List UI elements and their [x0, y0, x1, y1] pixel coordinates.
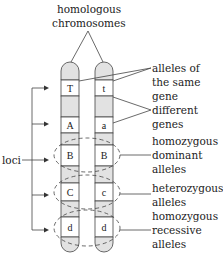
- allele-right-a: a: [102, 120, 107, 131]
- pointer-different-genes-bottom: [113, 110, 151, 123]
- pointer-different-genes-top: [113, 97, 151, 110]
- title-pointer-left: [71, 31, 88, 62]
- homologous-chromosomes-diagram: homologous chromosomes T A B C d t a B: [0, 0, 223, 266]
- arrow-head-icon: [44, 122, 49, 127]
- label-homozygous-recessive: homozygous recessive alleles: [152, 210, 221, 250]
- arrow-head-icon: [44, 193, 49, 198]
- allele-left-d: d: [68, 222, 73, 233]
- arrow-head-icon: [44, 158, 49, 163]
- allele-left-T: T: [67, 83, 73, 94]
- allele-right-c: c: [102, 187, 107, 198]
- label-heterozygous: heterozygous alleles: [152, 182, 223, 208]
- pointer-same-gene-left: [79, 68, 151, 81]
- allele-left-B: B: [67, 150, 74, 161]
- allele-right-t: t: [103, 83, 106, 94]
- label-alleles-same-gene: alleles of the same gene: [152, 62, 204, 102]
- allele-left-A: A: [66, 120, 74, 131]
- arrow-head-icon: [44, 228, 49, 233]
- allele-right-d: d: [102, 222, 107, 233]
- loci-arrows: [22, 86, 49, 233]
- label-loci: loci: [2, 154, 22, 166]
- title-pointer-right: [88, 31, 103, 62]
- pointer-same-gene-right: [113, 68, 151, 81]
- label-different-genes: different genes: [152, 104, 201, 130]
- title-line-1: homologous: [57, 3, 121, 15]
- title-line-2: chromosomes: [52, 17, 126, 29]
- allele-right-B: B: [101, 150, 108, 161]
- arrow-head-icon: [44, 86, 49, 91]
- allele-left-C: C: [67, 187, 74, 198]
- label-homozygous-dominant: homozygous dominant alleles: [152, 135, 221, 175]
